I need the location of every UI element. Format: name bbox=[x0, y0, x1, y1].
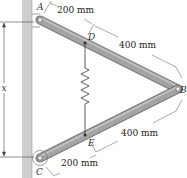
pin-a bbox=[38, 18, 42, 22]
dim-ce-label: 200 mm bbox=[61, 158, 99, 168]
truss-spring-diagram: x 200 mm 400 mm bbox=[0, 0, 187, 178]
pin-c bbox=[38, 156, 42, 160]
dim-db-label: 400 mm bbox=[119, 40, 157, 50]
dim-ad-label: 200 mm bbox=[57, 5, 95, 15]
point-e-label: E bbox=[87, 138, 95, 148]
point-d-label: D bbox=[87, 32, 95, 42]
wall bbox=[22, 0, 32, 178]
point-a-label: A bbox=[36, 2, 44, 12]
point-b-label: B bbox=[179, 85, 187, 95]
bar-cb bbox=[40, 87, 178, 158]
bar-ab bbox=[40, 18, 178, 89]
x-dimension-label: x bbox=[2, 83, 7, 93]
spring bbox=[81, 42, 89, 136]
dim-eb-label: 400 mm bbox=[121, 128, 159, 138]
point-c-label: C bbox=[36, 167, 43, 177]
